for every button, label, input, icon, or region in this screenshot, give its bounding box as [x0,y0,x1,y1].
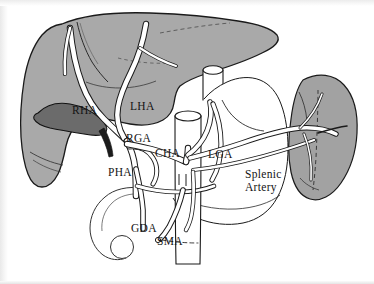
pancreas-head-circle [111,236,134,259]
vessel-label-splenic-artery-line-1: Artery [245,181,277,194]
vessel-label-lga: LGA [208,148,233,160]
vessel-label-rga: RGA [126,132,152,144]
vessel-label-splenic-artery: SplenicArtery [245,168,282,194]
vessel-label-lha: LHA [130,100,155,112]
vessel-label-sma: SMA [157,235,183,247]
vessel-label-gda: GDA [131,222,157,234]
esophagus-lumen-ellipse [203,66,223,74]
vessel-label-splenic-artery-line-0: Splenic [245,168,282,181]
cystic-duct [99,128,113,157]
vessel-label-rha: RHA [72,104,98,116]
aorta-lumen-ellipse [175,111,201,121]
vessel-label-cha: CHA [155,147,181,159]
anatomy-illustration: RHALHARGACHALGAPHAGDASMASplenicArtery [0,0,374,284]
vessel-label-pha: PHA [108,166,132,178]
anatomy-figure: RHALHARGACHALGAPHAGDASMASplenicArtery [0,0,374,284]
